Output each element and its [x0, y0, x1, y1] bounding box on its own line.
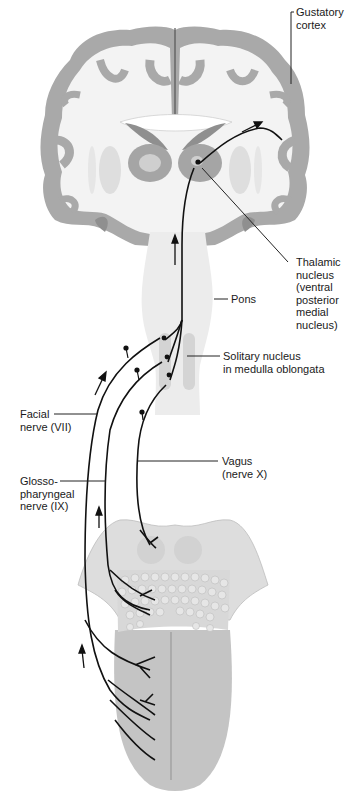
brainstem [142, 232, 213, 415]
label-pons: Pons [231, 293, 256, 306]
label-facial-nerve: Facial nerve (VII) [20, 408, 71, 433]
brain-coronal-section [40, 27, 309, 250]
label-gustatory-cortex: Gustatory cortex [296, 6, 344, 31]
label-solitary-nucleus: Solitary nucleus in medulla oblongata [223, 350, 325, 375]
label-vagus-nerve: Vagus (nerve X) [222, 455, 267, 480]
gustatory-pathway-diagram [0, 0, 356, 797]
tongue [78, 520, 268, 791]
label-glossopharyngeal-nerve: Glosso- pharyngeal nerve (IX) [20, 475, 74, 513]
label-thalamic-nucleus: Thalamic nucleus (ventral posterior medi… [296, 256, 341, 331]
